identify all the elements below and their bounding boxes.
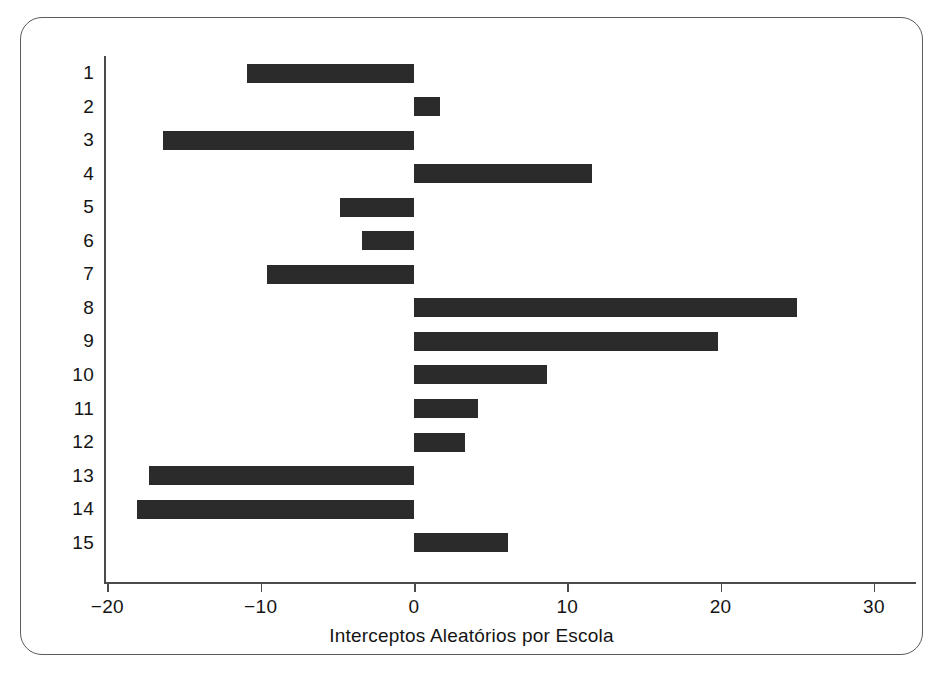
y-axis-tick-label: 5 [83, 196, 94, 218]
x-axis-tick-label: 20 [710, 596, 732, 618]
x-axis-tick [414, 583, 416, 592]
bar [414, 164, 592, 183]
x-axis-line [104, 582, 916, 584]
y-axis-tick-label: 9 [83, 330, 94, 352]
bar [149, 466, 414, 485]
y-axis-tick-label: 6 [83, 230, 94, 252]
x-axis-tick [261, 583, 263, 592]
bar [163, 131, 414, 150]
y-axis-tick-label: 4 [83, 163, 94, 185]
y-axis-tick-label: 15 [72, 532, 94, 554]
x-axis-tick [567, 583, 569, 592]
x-axis-title: Interceptos Aleatórios por Escola [21, 625, 922, 647]
x-axis-tick [721, 583, 723, 592]
x-axis-tick-label: 10 [556, 596, 578, 618]
y-axis-tick-label: 1 [83, 62, 94, 84]
bar [340, 198, 414, 217]
figure-frame: 123456789101112131415 −20−100102030 Inte… [20, 17, 923, 655]
y-axis-line [104, 56, 106, 583]
x-axis-tick [107, 583, 109, 592]
bar [414, 97, 440, 116]
x-axis-tick-label: −20 [91, 596, 124, 618]
bar [137, 500, 414, 519]
bar [414, 298, 797, 317]
y-axis-tick-label: 12 [72, 431, 94, 453]
y-axis-tick-label: 11 [74, 398, 94, 420]
y-axis-tick-label: 14 [72, 498, 94, 520]
y-axis-tick-label: 8 [83, 297, 94, 319]
bar [267, 265, 414, 284]
bar [414, 332, 718, 351]
y-axis-tick-label: 13 [72, 465, 94, 487]
chart-screenshot: 123456789101112131415 −20−100102030 Inte… [0, 0, 936, 674]
bar [414, 533, 508, 552]
bar [414, 399, 478, 418]
bar [414, 365, 547, 384]
x-axis-tick [874, 583, 876, 592]
bar [414, 433, 465, 452]
y-axis-tick-label: 3 [83, 129, 94, 151]
x-axis-tick-label: 0 [409, 596, 420, 618]
bar [362, 231, 414, 250]
bar [247, 64, 414, 83]
y-axis-tick-label: 2 [83, 96, 94, 118]
y-axis-tick-label: 7 [83, 263, 94, 285]
y-axis-tick-label: 10 [72, 364, 94, 386]
x-axis-tick-label: 30 [863, 596, 885, 618]
x-axis-tick-label: −10 [244, 596, 277, 618]
